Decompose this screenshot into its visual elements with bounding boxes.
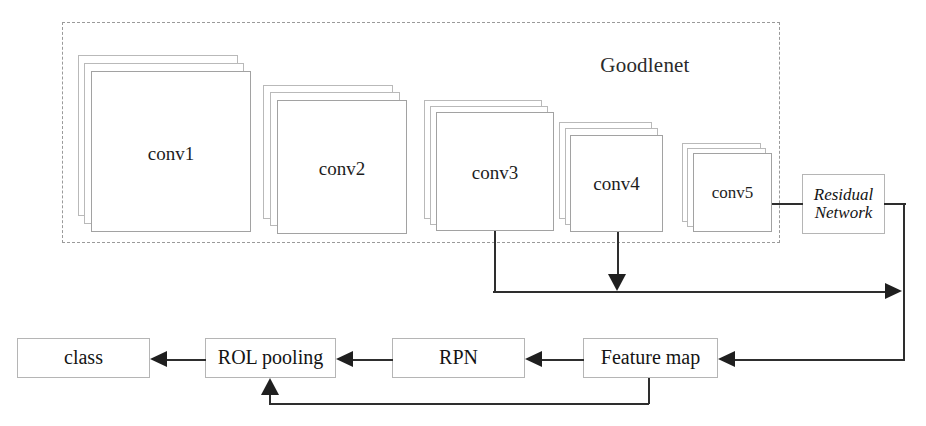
conv2-label: conv2 [277,158,407,180]
edge-rpn-to-roipooling [353,359,393,361]
diagram-canvas: Goodlenet conv1 conv2 conv3 conv4 conv5 … [0,0,926,426]
residual-network-label-line1: Residual [810,186,878,204]
conv1-stack: conv1 [78,55,258,237]
edge-merge-horizontal [493,291,885,293]
rpn-label: RPN [435,347,482,369]
conv3-stack: conv3 [424,100,559,235]
conv5-label: conv5 [693,183,772,203]
edge-featuremap-in-arrowhead [718,351,735,367]
roi-pooling-label: ROL pooling [214,347,327,369]
roi-pooling-box: ROL pooling [205,338,336,378]
class-label: class [60,347,107,369]
conv5-stack: conv5 [682,143,777,235]
residual-network-box: Residual Network [802,174,885,234]
edge-class-in-arrowhead [150,351,167,367]
edge-roipooling-to-class [167,359,206,361]
conv1-label: conv1 [91,143,251,165]
edge-conv4-drop [617,232,619,274]
feature-map-label: Feature map [597,347,704,369]
edge-trunk-to-featuremap [735,359,905,361]
conv3-label: conv3 [436,162,554,184]
edge-feedback-drop [648,378,650,404]
edge-merge-arrowhead [885,283,902,299]
edge-roipooling-in-arrowhead [336,351,353,367]
edge-feedback-arrowhead [261,378,279,395]
edge-conv5-to-residual [772,203,803,205]
edge-feedback-horizontal [269,403,649,405]
conv4-stack: conv4 [559,122,669,236]
edge-conv4-arrowhead [608,274,626,291]
conv4-label: conv4 [570,173,663,195]
rpn-box: RPN [392,338,525,378]
residual-network-label-line2: Network [811,204,877,222]
edge-residual-trunk-vertical [903,203,905,361]
class-box: class [17,338,150,378]
goodlenet-group-label: Goodlenet [585,53,705,78]
conv2-stack: conv2 [263,85,413,237]
edge-featuremap-to-rpn [542,359,584,361]
edge-conv3-drop [494,231,496,292]
edge-rpn-in-arrowhead [525,351,542,367]
feature-map-box: Feature map [583,338,718,378]
